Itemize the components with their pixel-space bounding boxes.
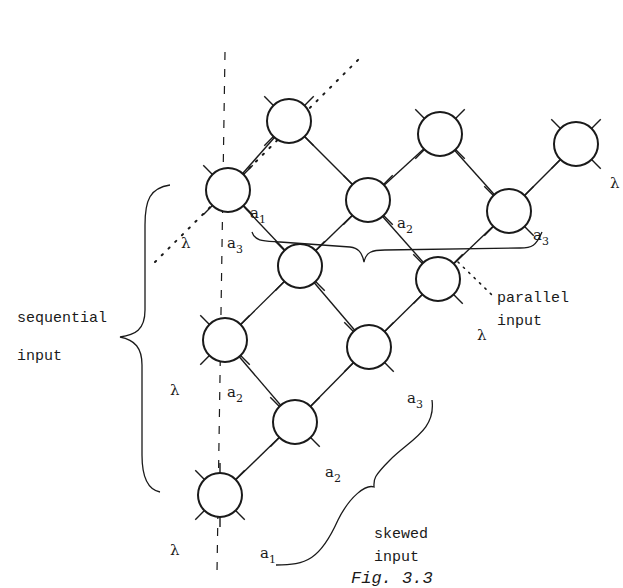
sequential-input-label-line1: sequential [17,310,107,327]
io-stub [456,109,465,118]
io-stub [525,186,534,195]
io-stub [200,356,209,365]
skewed-input-label-line1: skewed [374,526,428,543]
processing-cell-n4 [206,168,250,212]
io-stub [385,322,394,331]
guide-lines [155,52,362,572]
io-stub [200,315,209,324]
label-n6-a3: a3 [533,226,549,248]
io-stub [195,470,204,479]
processing-cell-n1 [267,99,311,143]
processing-cell-n9 [203,318,247,362]
label-n4-a1: a1 [250,204,266,226]
io-stub [270,438,279,447]
label-n5-a2: a2 [397,214,413,236]
processing-cell-n8 [416,257,460,301]
io-stub [236,511,245,520]
io-stub [415,109,424,118]
processing-cell-n6 [487,189,531,233]
label-n10-a3: a3 [407,389,423,411]
figure-caption: Fig. 3.3 [351,569,433,588]
io-stub [275,282,284,291]
label-n9-a2: a2 [227,383,243,405]
sequential-brace [120,185,170,492]
label-n3-lambda: λ [610,174,620,192]
processing-cell-n5 [346,178,390,222]
systolic-array-figure: a1 a3 λ a2 a3 λ λ λ a2 a3 a2 λ a1 sequen… [0,0,623,588]
processing-cell-n7 [278,244,322,288]
label-n4-lambda: λ [181,234,191,252]
processing-cell-n2 [418,112,462,156]
io-stub [311,397,320,406]
io-stub [343,216,352,225]
processing-cell-n10 [347,325,391,369]
io-stub [311,438,320,447]
io-stub [344,363,353,372]
label-n11-a2: a2 [325,463,341,485]
sequential-input-label-line2: input [17,348,62,365]
edges [220,121,576,495]
io-stub [264,96,273,105]
label-n4-a3: a3 [227,234,243,256]
processing-cell-n12 [198,473,242,517]
io-stub [592,160,601,169]
parallel-pointer [458,262,492,295]
io-stub [384,175,393,184]
skewed-input-label-line2: input [374,549,419,566]
io-stub [195,511,204,520]
label-n12-a1: a1 [260,544,276,566]
io-stub [343,175,352,184]
io-stub [316,241,325,250]
io-stub [551,160,560,169]
io-stub [551,119,560,128]
io-stub [305,137,314,146]
io-stub [305,96,314,105]
io-stub [241,315,250,324]
diagonal-dotted-line [155,56,362,262]
processing-cell-n11 [273,400,317,444]
parallel-input-label-line2: input [497,313,542,330]
parallel-input-label-line1: parallel [497,290,569,307]
label-n12-lambda: λ [170,541,180,559]
processing-cell-n3 [554,122,598,166]
io-stub [385,363,394,372]
io-stub [484,227,493,236]
io-stub [592,119,601,128]
io-stub [454,295,463,304]
io-stub [236,470,245,479]
label-n9-lambda: λ [170,381,180,399]
io-stub [203,206,212,215]
io-stub [413,295,422,304]
io-stub [415,150,424,159]
io-stub [203,165,212,174]
label-n8-lambda: λ [477,326,487,344]
